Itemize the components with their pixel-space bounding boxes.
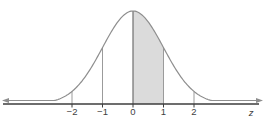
- normal-curve-chart: −2−1012 z: [0, 0, 265, 124]
- x-axis-label: z: [248, 107, 254, 118]
- tick-label-1: 1: [161, 106, 166, 117]
- tick-label--1: −1: [97, 106, 108, 117]
- tick-label--2: −2: [67, 106, 78, 117]
- vertical-guides: [72, 11, 194, 104]
- right-tail-arrow-icon: [256, 98, 263, 103]
- normal-curve-figure: −2−1012 z: [0, 0, 265, 124]
- tick-label-0: 0: [130, 106, 135, 117]
- tick-label-2: 2: [191, 106, 196, 117]
- left-tail-arrow-icon: [2, 98, 9, 103]
- axis-tick-labels: −2−1012: [67, 106, 197, 117]
- shaded-area-0-to-1: [133, 11, 164, 104]
